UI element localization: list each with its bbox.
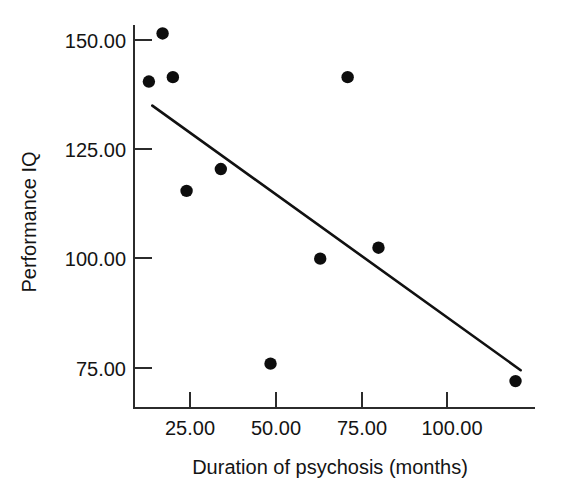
data-point [341,71,353,83]
axes-group [134,26,534,408]
plot-canvas: 150.00 125.00 100.00 75.00 25.00 50.00 7… [0,0,563,494]
y-tick-label-125: 125.00 [65,139,126,161]
x-tick-label-25: 25.00 [165,417,215,439]
scatter-plot-figure: 150.00 125.00 100.00 75.00 25.00 50.00 7… [0,0,563,494]
y-tick-label-75: 75.00 [76,358,126,380]
x-tick-label-50: 50.00 [251,417,301,439]
data-point [143,75,155,87]
y-tick-label-100: 100.00 [65,248,126,270]
data-point [264,357,276,369]
x-axis-title: Duration of psychosis (months) [192,456,468,478]
regression-line [152,106,520,371]
data-point [156,27,168,39]
data-point [167,71,179,83]
data-point [314,252,326,264]
x-tick-label-75: 75.00 [337,417,387,439]
y-tick-label-150: 150.00 [65,30,126,52]
data-point [180,185,192,197]
data-series-layer [143,27,522,387]
data-point [215,163,227,175]
data-point [372,242,384,254]
y-axis-title: Performance IQ [18,151,40,292]
x-tick-label-100: 100.00 [421,417,482,439]
x-tick-labels: 25.00 50.00 75.00 100.00 [165,417,483,439]
y-tick-labels: 150.00 125.00 100.00 75.00 [65,30,126,380]
data-point [509,375,521,387]
